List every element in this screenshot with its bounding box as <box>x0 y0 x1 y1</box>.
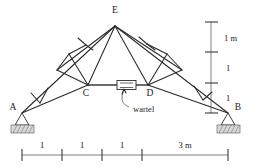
vertical-dim-label-0: 1 m <box>224 33 237 43</box>
support-b-triangle <box>221 113 235 125</box>
node-label-c: C <box>83 88 89 98</box>
support-a <box>11 113 34 133</box>
support-b-base-block <box>217 125 240 133</box>
truss-main-outline <box>22 26 228 113</box>
web-right-long-2 <box>115 26 148 85</box>
web-left-strut-upper <box>78 38 86 45</box>
web-left-long-1 <box>57 26 115 70</box>
horizontal-dim-label-2: 1 <box>120 140 124 150</box>
vertical-dim-label-2: 1 <box>226 93 230 103</box>
support-a-triangle <box>15 113 29 125</box>
truss-svg: E A B C D wartel 1 m 1 1 <box>0 0 265 168</box>
vertical-dim-label-1: 1 <box>226 63 230 73</box>
horizontal-dim-label-1: 1 <box>80 140 84 150</box>
support-a-base-block <box>11 125 34 133</box>
horizontal-dim-label-0: 1 <box>40 140 44 150</box>
turnbuckle-symbol <box>117 81 136 90</box>
wartel-label: wartel <box>133 104 155 114</box>
node-label-b: B <box>235 102 241 112</box>
support-b <box>217 113 240 133</box>
web-right-long-1 <box>115 26 182 70</box>
horizontal-dimension-scale: 1 1 1 3 m <box>22 140 228 161</box>
node-label-d: D <box>147 88 154 98</box>
member-lower-chord-right <box>148 85 228 113</box>
truss-diagram: E A B C D wartel 1 m 1 1 <box>0 0 265 168</box>
node-label-a: A <box>10 102 17 112</box>
horizontal-dim-label-3: 3 m <box>179 140 192 150</box>
node-label-e: E <box>112 5 118 15</box>
member-lower-chord-left <box>22 85 88 113</box>
turnbuckle-body <box>117 81 136 90</box>
web-left-long-2 <box>88 26 115 85</box>
member-rafter-left <box>22 26 115 113</box>
